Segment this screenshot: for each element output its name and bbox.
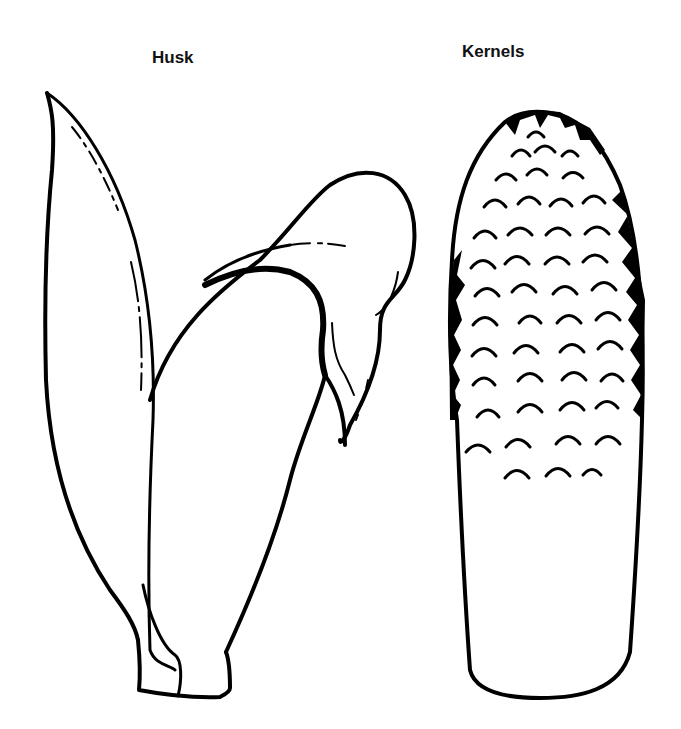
- husk-right-leaf-outer: [150, 173, 414, 442]
- husk-left-leaf-highlight-2: [131, 262, 142, 390]
- cob-top-bumps: [505, 110, 605, 155]
- husk-base: [138, 640, 230, 697]
- illustration: [0, 0, 681, 729]
- husk-left-leaf-outer: [45, 93, 138, 640]
- cob-right-bumps: [612, 190, 645, 420]
- husk-right-leaf-highlight: [290, 243, 345, 246]
- husk-left-leaf-highlight: [72, 127, 118, 210]
- husk-right-leaf-lower-highlight: [356, 380, 368, 420]
- husk-right-leaf-tip: [325, 375, 345, 445]
- kernel-arcs: [466, 132, 623, 478]
- husk-right-leaf-inner-line: [332, 323, 354, 395]
- husk-right-leaf-upper-fold: [205, 245, 290, 280]
- husk-right-leaf-stem: [226, 375, 325, 652]
- kernels-figure: [449, 110, 645, 698]
- husk-right-leaf-inner-curve: [205, 269, 325, 375]
- husk-figure: [45, 93, 414, 697]
